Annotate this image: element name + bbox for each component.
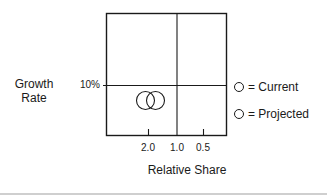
legend-item-current: = Current xyxy=(234,80,298,94)
x-tick-label-1-0: 1.0 xyxy=(165,142,189,153)
legend-label-current: = Current xyxy=(248,80,298,94)
plot-frame xyxy=(107,14,227,136)
x-axis-label: Relative Share xyxy=(120,163,254,177)
y-tick-label: 10% xyxy=(80,79,100,90)
circle-icon xyxy=(234,82,244,92)
circle-icon xyxy=(234,109,244,119)
projected-position-circle xyxy=(147,92,165,110)
y-axis-label-line2: Rate xyxy=(10,91,58,105)
legend-item-projected: = Projected xyxy=(234,107,309,121)
legend-label-projected: = Projected xyxy=(248,107,309,121)
current-position-circle xyxy=(137,92,155,110)
y-axis-label: Growth Rate xyxy=(10,77,58,105)
x-tick-label-0-5: 0.5 xyxy=(191,142,215,153)
x-tick-label-2-0: 2.0 xyxy=(136,142,160,153)
bottom-divider xyxy=(0,193,327,195)
y-axis-label-line1: Growth xyxy=(10,77,58,91)
